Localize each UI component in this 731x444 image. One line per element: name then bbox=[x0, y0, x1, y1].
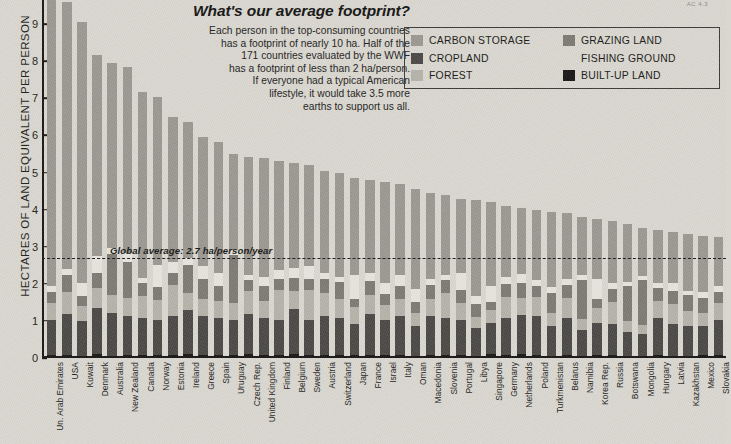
bar-segment bbox=[107, 63, 117, 248]
bar-segment bbox=[259, 158, 269, 277]
x-axis-label: Canada bbox=[146, 362, 156, 392]
bar-segment bbox=[547, 326, 557, 356]
bar-segment bbox=[501, 206, 511, 277]
bar-segment bbox=[259, 286, 269, 301]
bar-segment bbox=[214, 301, 224, 318]
bar-segment bbox=[123, 298, 133, 317]
bar-segment bbox=[350, 275, 360, 299]
bar bbox=[153, 97, 163, 359]
bar-segment bbox=[365, 180, 375, 273]
bar-segment bbox=[411, 189, 421, 289]
bar bbox=[517, 208, 527, 358]
bar-segment bbox=[517, 283, 527, 298]
bar-segment bbox=[517, 298, 527, 315]
bar-segment bbox=[123, 316, 133, 355]
bar-segment bbox=[653, 230, 663, 283]
bar-segment bbox=[77, 306, 87, 321]
bar-segment bbox=[698, 298, 708, 313]
bar-segment bbox=[577, 280, 587, 319]
bar-segment bbox=[683, 295, 693, 312]
bar-segment bbox=[486, 323, 496, 355]
bar-segment bbox=[380, 320, 390, 355]
bar-segment bbox=[486, 202, 496, 285]
chart-legend: CARBON STORAGECROPLANDFOREST GRAZING LAN… bbox=[404, 27, 720, 89]
bar-segment bbox=[47, 292, 57, 303]
x-axis-label: Finland bbox=[282, 362, 292, 390]
bar-segment bbox=[683, 326, 693, 356]
bar bbox=[107, 63, 117, 358]
bar-segment bbox=[107, 295, 117, 314]
x-axis-label: Singapore bbox=[494, 362, 504, 401]
bar-segment bbox=[471, 317, 481, 328]
bar-segment bbox=[380, 182, 390, 283]
bar-segment bbox=[198, 299, 208, 316]
bar bbox=[623, 224, 633, 358]
bar-segment bbox=[608, 289, 618, 302]
x-axis-label: Mongolia bbox=[646, 362, 656, 396]
bar-segment bbox=[517, 274, 527, 283]
bar bbox=[183, 122, 193, 358]
x-axis-label: Oman bbox=[418, 362, 428, 385]
bar-segment bbox=[198, 266, 208, 279]
x-axis-label: USA bbox=[70, 362, 80, 379]
x-axis-label: Norway bbox=[161, 362, 171, 391]
bar-segment bbox=[592, 299, 602, 308]
bar-segment bbox=[229, 320, 239, 355]
bar-segment bbox=[62, 292, 72, 314]
bar-segment bbox=[198, 279, 208, 299]
legend-label: CARBON STORAGE bbox=[429, 35, 530, 46]
bar-segment bbox=[638, 334, 648, 356]
x-axis-label: Japan bbox=[358, 362, 368, 385]
bar-segment bbox=[456, 320, 466, 355]
bar bbox=[638, 228, 648, 358]
bar-segment bbox=[380, 305, 390, 320]
bar-segment bbox=[441, 280, 451, 293]
x-axis-label: Spain bbox=[221, 362, 231, 384]
bar-segment bbox=[411, 289, 421, 302]
legend-label: CROPLAND bbox=[429, 53, 489, 64]
bar-segment bbox=[47, 320, 57, 355]
bar-segment bbox=[714, 303, 724, 320]
bar-segment bbox=[653, 288, 663, 301]
x-axis-label: Macedonia bbox=[433, 362, 443, 403]
bar bbox=[714, 237, 724, 358]
x-axis-label: Kuwait bbox=[85, 362, 95, 387]
bar-segment bbox=[395, 299, 405, 316]
bar bbox=[350, 178, 360, 358]
bar-segment bbox=[123, 262, 133, 297]
legend-swatch-icon bbox=[563, 70, 575, 81]
bar-segment bbox=[592, 219, 602, 279]
y-tick-label: 0 bbox=[32, 352, 38, 364]
bar-segment bbox=[77, 296, 87, 305]
y-tick-label: 2 bbox=[32, 278, 38, 290]
x-axis-label: Denmark bbox=[100, 362, 110, 396]
x-axis-line bbox=[42, 356, 726, 359]
y-tick-label: 8 bbox=[32, 55, 38, 67]
x-axis-labels: Un. Arab EmiratesUSAKuwaitDenmarkAustral… bbox=[44, 360, 726, 444]
bar-segment bbox=[623, 332, 633, 356]
bar-segment bbox=[350, 324, 360, 356]
y-tick-label: 1 bbox=[32, 315, 38, 327]
x-axis-label: Kazakhstan bbox=[691, 362, 701, 406]
bar-segment bbox=[183, 122, 193, 257]
bar-segment bbox=[562, 298, 572, 318]
bar-segment bbox=[592, 308, 602, 323]
annotation-line: has a footprint of nearly 10 ha. Half of… bbox=[148, 38, 410, 51]
y-tick-label: 4 bbox=[32, 204, 38, 216]
x-axis-label: Ireland bbox=[191, 362, 201, 388]
x-axis-label: Switzerland bbox=[343, 362, 353, 406]
bar-segment bbox=[683, 234, 693, 291]
x-axis-label: Austria bbox=[327, 362, 337, 388]
bar-segment bbox=[668, 283, 678, 290]
legend-item: GRAZING LAND bbox=[563, 33, 676, 48]
legend-label: BUILT-UP LAND bbox=[581, 70, 661, 81]
legend-column-2: GRAZING LANDFISHING GROUNDBUILT-UP LAND bbox=[563, 33, 676, 88]
bar bbox=[532, 210, 542, 358]
x-axis-label: Libya bbox=[479, 362, 489, 382]
bar-segment bbox=[92, 55, 102, 256]
bar-segment bbox=[244, 280, 254, 291]
legend-label: FOREST bbox=[429, 70, 473, 81]
legend-swatch-icon bbox=[563, 53, 575, 64]
bar bbox=[380, 182, 390, 358]
x-axis-label: Sweden bbox=[312, 362, 322, 393]
